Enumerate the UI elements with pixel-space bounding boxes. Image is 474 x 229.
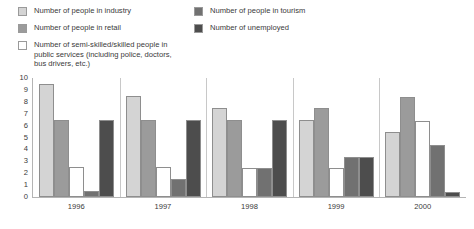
y-axis-tick-3: 3 — [8, 157, 28, 165]
bar-1999-series-3[interactable] — [344, 157, 359, 197]
bar-1998-series-4[interactable] — [272, 120, 287, 197]
bar-group-2000: 2000 — [379, 78, 466, 197]
bar-1998-series-1[interactable] — [227, 120, 242, 197]
bar-1996-series-1[interactable] — [54, 120, 69, 197]
y-axis-tick-2: 2 — [8, 169, 28, 177]
legend-label-public-services: Number of semi-skilled/skilled people in… — [34, 40, 172, 69]
group-separator — [33, 78, 34, 197]
bar-chart-plot-area: 109876543210 19961997199819992000 — [0, 78, 474, 229]
bar-1997-series-4[interactable] — [186, 120, 201, 197]
bars-container — [212, 78, 287, 197]
bar-2000-series-1[interactable] — [400, 97, 415, 197]
bar-1998-series-2[interactable] — [242, 168, 257, 197]
y-axis-tick-0: 0 — [8, 193, 28, 201]
bar-2000-series-0[interactable] — [385, 132, 400, 197]
legend-column-right: Number of people in tourism Number of un… — [194, 6, 374, 40]
group-separator — [379, 78, 380, 197]
bars-container — [385, 78, 460, 197]
x-axis-line — [32, 197, 466, 198]
legend-label-industry: Number of people in industry — [34, 6, 131, 16]
x-axis-label-1998: 1998 — [206, 202, 293, 211]
legend-column-left: Number of people in industry Number of p… — [18, 6, 193, 76]
y-axis-tick-8: 8 — [8, 98, 28, 106]
legend-item-unemployed: Number of unemployed — [194, 23, 374, 33]
bar-1996-series-3[interactable] — [84, 191, 99, 197]
bar-1998-series-0[interactable] — [212, 108, 227, 197]
bar-1997-series-2[interactable] — [156, 167, 171, 197]
bar-group-1996: 1996 — [33, 78, 120, 197]
legend-swatch-industry — [18, 7, 27, 16]
bar-1999-series-1[interactable] — [314, 108, 329, 197]
bar-2000-series-3[interactable] — [430, 145, 445, 197]
bar-2000-series-4[interactable] — [445, 192, 460, 197]
bar-2000-series-2[interactable] — [415, 121, 430, 197]
y-axis-tick-7: 7 — [8, 110, 28, 118]
legend-item-public-services: Number of semi-skilled/skilled people in… — [18, 40, 193, 69]
x-axis-label-1997: 1997 — [120, 202, 207, 211]
bar-1996-series-2[interactable] — [69, 167, 84, 197]
legend-label-unemployed: Number of unemployed — [210, 23, 289, 33]
legend-item-retail: Number of people in retail — [18, 23, 193, 33]
y-axis-tick-1: 1 — [8, 181, 28, 189]
y-axis: 109876543210 — [8, 78, 28, 197]
chart-legend: Number of people in industry Number of p… — [0, 0, 474, 72]
group-separator — [293, 78, 294, 197]
legend-item-industry: Number of people in industry — [18, 6, 193, 16]
legend-label-retail: Number of people in retail — [34, 23, 121, 33]
bar-1998-series-3[interactable] — [257, 168, 272, 197]
chart-page: Number of people in industry Number of p… — [0, 0, 474, 229]
bar-1999-series-2[interactable] — [329, 168, 344, 197]
group-separator — [120, 78, 121, 197]
legend-item-tourism: Number of people in tourism — [194, 6, 374, 16]
y-axis-tick-5: 5 — [8, 134, 28, 142]
legend-label-tourism: Number of people in tourism — [210, 6, 305, 16]
bar-1997-series-3[interactable] — [171, 179, 186, 197]
y-axis-tick-10: 10 — [8, 74, 28, 82]
bars-container — [39, 78, 114, 197]
legend-swatch-tourism — [194, 7, 203, 16]
bar-1999-series-0[interactable] — [299, 120, 314, 197]
bars-container — [299, 78, 374, 197]
legend-swatch-retail — [18, 24, 27, 33]
y-axis-tick-9: 9 — [8, 86, 28, 94]
y-axis-tick-4: 4 — [8, 145, 28, 153]
bar-1996-series-0[interactable] — [39, 84, 54, 197]
bar-1997-series-0[interactable] — [126, 96, 141, 197]
legend-swatch-unemployed — [194, 24, 203, 33]
bar-group-1998: 1998 — [206, 78, 293, 197]
group-separator — [206, 78, 207, 197]
x-axis-label-2000: 2000 — [379, 202, 466, 211]
bar-1999-series-4[interactable] — [359, 157, 374, 197]
bar-groups: 19961997199819992000 — [33, 78, 466, 197]
bar-group-1999: 1999 — [293, 78, 380, 197]
bars-container — [126, 78, 201, 197]
bar-1997-series-1[interactable] — [141, 120, 156, 197]
x-axis-label-1999: 1999 — [293, 202, 380, 211]
y-axis-tick-6: 6 — [8, 122, 28, 130]
legend-swatch-public-services — [18, 41, 27, 50]
bar-group-1997: 1997 — [120, 78, 207, 197]
x-axis-label-1996: 1996 — [33, 202, 120, 211]
bar-1996-series-4[interactable] — [99, 120, 114, 197]
